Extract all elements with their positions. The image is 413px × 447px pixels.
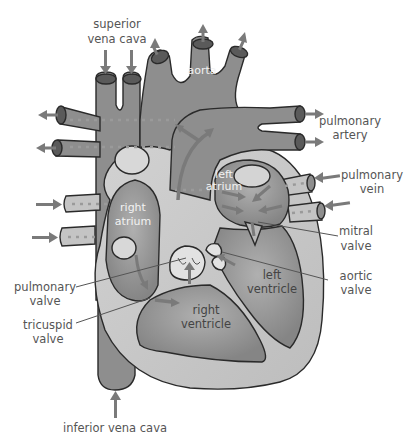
heart-diagram: superior vena cava aorta pulmonary arter… bbox=[0, 0, 413, 447]
svg-text:valve: valve bbox=[30, 294, 61, 308]
svg-text:pulmonary: pulmonary bbox=[319, 114, 381, 128]
label-superior-vena-cava: superior vena cava bbox=[87, 17, 146, 46]
label-pulmonary-artery: pulmonary artery bbox=[319, 114, 381, 142]
svg-text:mitral: mitral bbox=[339, 224, 373, 238]
svg-text:valve: valve bbox=[33, 332, 64, 346]
svg-text:aortic: aortic bbox=[340, 269, 373, 283]
label-inferior-vena-cava: inferior vena cava bbox=[63, 421, 167, 435]
label-pulmonary-vein: pulmonary vein bbox=[341, 168, 403, 196]
svg-text:superior: superior bbox=[93, 17, 141, 31]
label-mitral-valve: mitral valve bbox=[339, 224, 373, 253]
svg-text:pulmonary: pulmonary bbox=[14, 280, 76, 294]
svg-text:right: right bbox=[192, 303, 220, 317]
svg-text:vein: vein bbox=[360, 182, 384, 196]
svg-text:vena cava: vena cava bbox=[87, 32, 146, 46]
svg-text:atrium: atrium bbox=[115, 215, 151, 228]
svg-text:left: left bbox=[263, 268, 282, 282]
svg-text:ventricle: ventricle bbox=[181, 317, 231, 331]
svg-text:pulmonary: pulmonary bbox=[341, 168, 403, 182]
pulmonary-artery-right-branches bbox=[52, 106, 100, 157]
svg-text:right: right bbox=[120, 201, 147, 214]
svg-text:ventricle: ventricle bbox=[247, 282, 297, 296]
label-aortic-valve: aortic valve bbox=[340, 269, 373, 297]
svg-text:atrium: atrium bbox=[206, 180, 242, 193]
label-pulmonary-valve: pulmonary valve bbox=[14, 280, 76, 308]
svg-text:tricuspid: tricuspid bbox=[23, 318, 73, 332]
svg-text:artery: artery bbox=[333, 128, 368, 142]
label-tricuspid-valve: tricuspid valve bbox=[23, 318, 73, 346]
svg-text:valve: valve bbox=[341, 283, 372, 297]
pulmonary-valve bbox=[170, 246, 205, 280]
label-right-atrium: right atrium bbox=[115, 201, 151, 228]
label-aorta: aorta bbox=[187, 64, 216, 77]
svg-text:valve: valve bbox=[341, 239, 372, 253]
